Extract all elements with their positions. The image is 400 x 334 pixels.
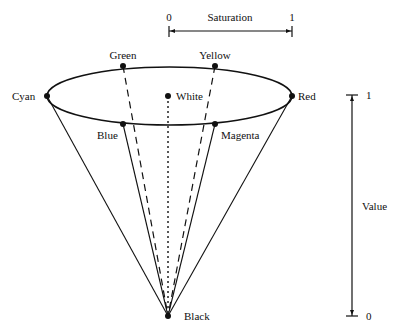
label-red: Red	[298, 90, 316, 102]
value-max-label: 1	[366, 89, 372, 101]
white-point	[165, 93, 171, 99]
black-point	[165, 313, 171, 319]
label-cyan: Cyan	[12, 90, 36, 102]
label-blue: Blue	[97, 129, 118, 141]
saturation-max-label: 1	[289, 11, 295, 23]
magenta-point	[212, 121, 218, 127]
label-black: Black	[184, 310, 210, 322]
saturation-scale: 0 Saturation 1	[166, 11, 295, 37]
cone	[47, 66, 292, 316]
saturation-min-label: 0	[166, 11, 172, 23]
label-green: Green	[110, 49, 137, 61]
red-point	[289, 93, 295, 99]
value-label: Value	[362, 200, 387, 212]
blue-point	[120, 121, 126, 127]
cyan-point	[44, 93, 50, 99]
green-point	[120, 63, 126, 69]
hsv-cone-diagram: 0 Saturation 1 Cyan Red Green Yellow Whi…	[0, 0, 400, 334]
color-points	[44, 63, 295, 319]
saturation-label: Saturation	[207, 11, 253, 23]
label-magenta: Magenta	[221, 129, 260, 141]
value-scale: 1 Value 0	[346, 89, 387, 322]
label-yellow: Yellow	[199, 49, 230, 61]
label-white: White	[176, 90, 203, 102]
value-min-label: 0	[366, 310, 372, 322]
yellow-point	[212, 63, 218, 69]
